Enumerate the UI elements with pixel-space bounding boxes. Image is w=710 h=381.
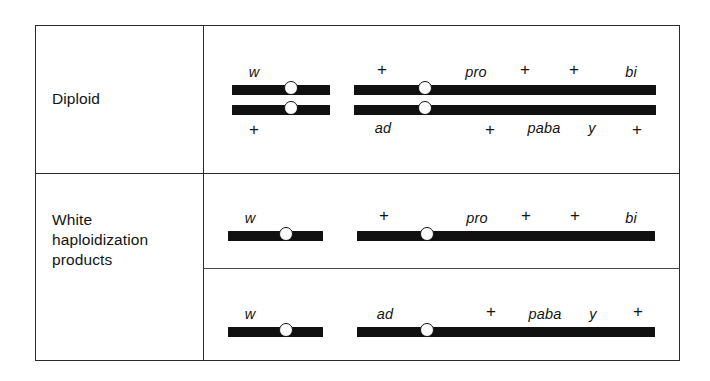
row-divider-product1-product2	[203, 268, 680, 269]
row-label-line-1: White	[52, 210, 148, 230]
marker-ad: ad	[377, 306, 394, 322]
chromosome-product-1-short: w	[228, 231, 323, 241]
chromosome-product-2-short: w	[228, 327, 323, 337]
chromosome-product-2-long: ad + paba y +	[357, 327, 655, 337]
marker-plus-2: +	[633, 302, 643, 322]
marker-plus-2: +	[521, 206, 531, 226]
row-label-line-2: haploidization	[52, 230, 148, 250]
marker-pro: pro	[465, 64, 487, 80]
chromosome-bar	[357, 327, 655, 337]
marker-plus-5: +	[632, 120, 642, 140]
marker-y: y	[588, 120, 595, 136]
chromosome-bar	[232, 85, 330, 95]
chromosome-figure: Diploid White haploidization products w …	[0, 0, 710, 381]
marker-w: w	[245, 210, 256, 226]
chromosome-bar	[357, 231, 655, 241]
row-label-line-3: products	[52, 250, 148, 270]
marker-plus-b-short: +	[249, 120, 259, 140]
marker-plus-1: +	[486, 302, 496, 322]
chromosome-diploid-homolog-a-short: w	[232, 85, 330, 95]
marker-plus-3: +	[569, 60, 579, 80]
chromosome-bar	[228, 327, 323, 337]
row-divider-diploid-haploid	[35, 173, 680, 174]
marker-plus-3: +	[570, 206, 580, 226]
marker-bi: bi	[625, 64, 637, 80]
marker-paba: paba	[528, 306, 561, 322]
marker-bi: bi	[625, 210, 637, 226]
marker-y: y	[589, 306, 596, 322]
row-label-white-haploidization-products: White haploidization products	[52, 210, 148, 270]
chromosome-bar	[228, 231, 323, 241]
marker-plus-4: +	[485, 120, 495, 140]
marker-paba: paba	[527, 120, 560, 136]
chromosome-diploid-homolog-a-long: + pro + + bi	[354, 85, 656, 95]
chromosome-bar	[354, 85, 656, 95]
marker-plus-2: +	[520, 60, 530, 80]
column-divider	[203, 25, 204, 361]
marker-w: w	[245, 306, 256, 322]
chromosome-diploid-homolog-b-long: ad + paba y +	[354, 105, 656, 115]
chromosome-product-1-long: + pro + + bi	[357, 231, 655, 241]
marker-plus-1: +	[377, 60, 387, 80]
marker-ad: ad	[375, 120, 392, 136]
figure-outer-border	[35, 25, 680, 361]
chromosome-bar	[354, 105, 656, 115]
marker-plus-1: +	[379, 206, 389, 226]
marker-w: w	[249, 64, 260, 80]
chromosome-diploid-homolog-b-short: +	[232, 105, 330, 115]
row-label-diploid: Diploid	[52, 89, 100, 109]
marker-pro: pro	[466, 210, 488, 226]
chromosome-bar	[232, 105, 330, 115]
